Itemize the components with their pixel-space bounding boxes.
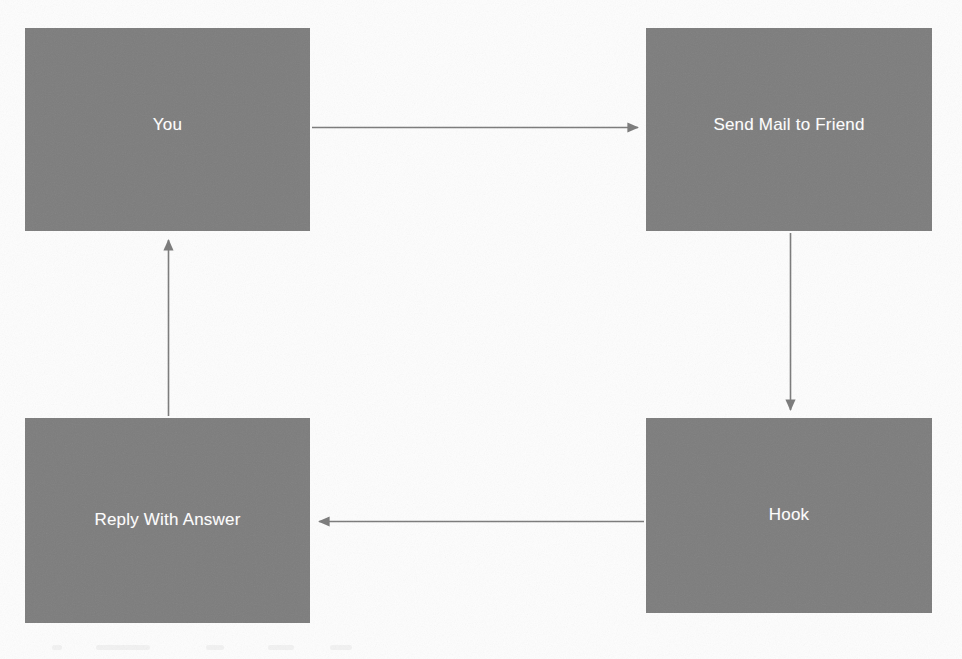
node-label-send-mail: Send Mail to Friend [713, 115, 864, 135]
node-label-reply-with-answer: Reply With Answer [94, 510, 240, 530]
node-send-mail[interactable]: Send Mail to Friend [646, 28, 932, 231]
diagram-canvas: You Send Mail to Friend Reply With Answe… [0, 0, 962, 659]
node-label-hook: Hook [769, 505, 810, 525]
node-you[interactable]: You [25, 28, 310, 231]
node-hook[interactable]: Hook [646, 418, 932, 613]
node-reply-with-answer[interactable]: Reply With Answer [25, 418, 310, 623]
node-label-you: You [153, 115, 182, 135]
